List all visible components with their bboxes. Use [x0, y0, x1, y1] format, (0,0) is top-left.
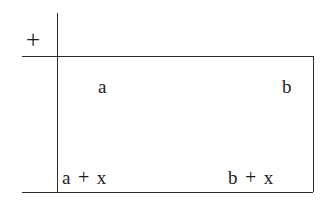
- table-header-rule: [22, 56, 313, 57]
- column-header-a: a: [98, 77, 106, 96]
- cell-operator: +: [238, 166, 264, 188]
- addition-table-figure: + a b a+x b+x: [0, 0, 333, 207]
- table-cell-a-plus-x: a+x: [62, 167, 107, 187]
- cell-operand-right: x: [264, 167, 274, 188]
- cell-operand-left: a: [62, 167, 71, 188]
- table-cell-b-plus-x: b+x: [228, 167, 274, 187]
- table-footer-rule: [22, 192, 313, 193]
- cell-operator: +: [71, 166, 97, 188]
- table-right-border: [313, 56, 314, 192]
- column-header-b: b: [282, 77, 292, 96]
- cell-operand-left: b: [228, 167, 238, 188]
- cell-operand-right: x: [97, 167, 107, 188]
- operator-column-divider: [57, 13, 58, 193]
- operator-symbol: +: [26, 27, 40, 52]
